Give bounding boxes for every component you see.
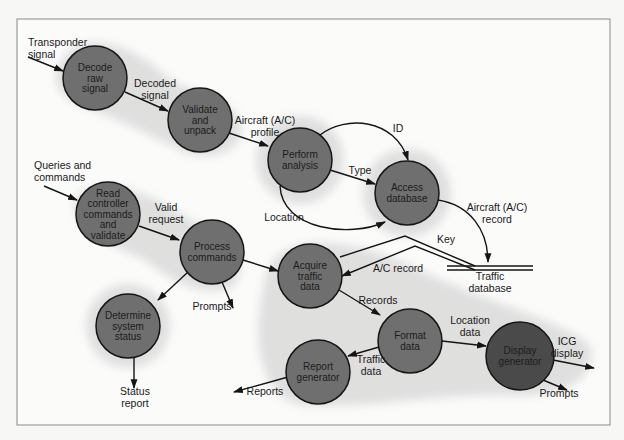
flow-label-status_report: Status xyxy=(120,385,150,397)
process-label: commands xyxy=(188,252,237,263)
flow-label-type: Type xyxy=(349,164,372,176)
flow-label-transponder: signal xyxy=(28,48,55,60)
process-node-status: Determinesystemstatus xyxy=(96,294,160,358)
process-node-report: Reportgenerator xyxy=(286,340,350,404)
process-label: database xyxy=(386,193,428,204)
flow-label-valid: request xyxy=(148,213,183,225)
process-label: data xyxy=(400,341,420,352)
process-label: signal xyxy=(82,83,108,94)
flow-label-decoded: signal xyxy=(141,89,168,101)
flow-label-location_data: Location xyxy=(450,314,490,326)
flow-label-traffic_db: database xyxy=(468,282,511,294)
process-label: Read xyxy=(96,188,120,199)
flow-label-icg: ICG xyxy=(558,335,577,347)
process-node-read: Readcontrollercommandsandvalidate xyxy=(76,182,140,246)
process-node-acquire: Acquiretrafficdata xyxy=(278,244,342,308)
flow-label-ac_record: A/C record xyxy=(373,262,423,274)
process-node-format: Formatdata xyxy=(378,309,442,373)
process-label: validate xyxy=(91,230,126,241)
process-label: data xyxy=(300,281,320,292)
process-label: generator xyxy=(297,372,340,383)
process-label: Display xyxy=(504,345,537,356)
data-flow-diagram: DecoderawsignalValidateandunpackPerforma… xyxy=(0,0,624,440)
flow-label-icg: display xyxy=(551,347,584,359)
flow-label-transponder: Transponder xyxy=(28,36,88,48)
process-label: unpack xyxy=(184,125,217,136)
process-label: raw xyxy=(87,73,104,84)
flow-label-prompts_right: Prompts xyxy=(539,387,578,399)
process-label: Format xyxy=(394,330,426,341)
process-label: Acquire xyxy=(293,260,327,271)
flow-label-prompts_left: Prompts xyxy=(192,300,231,312)
flow-label-ac_record_right: Aircraft (A/C) xyxy=(467,201,528,213)
process-label: Access xyxy=(391,182,423,193)
flow-label-reports: Reports xyxy=(247,385,284,397)
flow-label-profile: Aircraft (A/C) xyxy=(235,114,296,126)
process-node-decode: Decoderawsignal xyxy=(63,46,127,110)
process-node-access: Accessdatabase xyxy=(375,161,439,225)
process-node-validate: Validateandunpack xyxy=(168,88,232,152)
process-node-process: Processcommands xyxy=(180,220,244,284)
process-label: generator xyxy=(499,356,542,367)
process-label: and xyxy=(192,115,209,126)
process-label: controller xyxy=(87,198,129,209)
flow-label-id: ID xyxy=(393,122,404,134)
flow-label-location_data: data xyxy=(460,326,481,338)
process-label: Report xyxy=(303,361,333,372)
flow-label-queries: commands xyxy=(34,171,85,183)
flow-label-key: Key xyxy=(437,233,456,245)
process-label: Perform xyxy=(282,149,318,160)
process-label: Process xyxy=(194,241,230,252)
flow-label-ac_record_right: record xyxy=(482,213,512,225)
process-label: status xyxy=(115,331,142,342)
flow-label-queries: Queries and xyxy=(34,159,91,171)
flow-label-valid: Valid xyxy=(155,201,178,213)
process-label: traffic xyxy=(298,271,322,282)
flow-label-status_report: report xyxy=(121,397,149,409)
process-node-display: Displaygenerator xyxy=(486,322,554,390)
flow-label-location: Location xyxy=(264,211,304,223)
flow-label-records: Records xyxy=(358,294,397,306)
process-label: and xyxy=(100,219,117,230)
process-label: Validate xyxy=(182,104,218,115)
process-label: analysis xyxy=(282,160,318,171)
flow-label-decoded: Decoded xyxy=(134,77,176,89)
process-label: system xyxy=(112,321,144,332)
process-label: commands xyxy=(84,209,133,220)
flow-label-profile: profile xyxy=(251,126,280,138)
process-label: Decode xyxy=(78,62,113,73)
flow-label-traffic_data: Traffic xyxy=(357,353,386,365)
flow-label-traffic_data: data xyxy=(361,365,382,377)
flow-label-traffic_db: Traffic xyxy=(476,270,505,282)
process-label: Determine xyxy=(105,310,152,321)
